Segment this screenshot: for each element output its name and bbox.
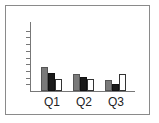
bar-q1-series-1 [41,67,48,91]
bar-q2-series-3 [87,79,94,91]
y-tick [26,44,30,45]
y-tick [26,64,30,65]
y-tick [26,58,30,59]
y-axis [30,22,31,91]
y-tick [26,51,30,52]
bar-q2-series-1 [73,74,80,91]
y-tick [26,37,30,38]
y-tick [26,31,30,32]
bar-q3-series-2 [112,84,119,91]
category-label-q2: Q2 [69,95,99,109]
category-label-q1: Q1 [37,95,67,109]
x-axis [30,91,135,92]
bar-q3-series-1 [105,80,112,91]
bar-q1-series-2 [48,73,55,91]
bar-q3-series-3 [119,74,126,91]
category-label-q3: Q3 [101,95,131,109]
y-tick [26,71,30,72]
y-tick [26,78,30,79]
y-tick [26,84,30,85]
bar-q1-series-3 [55,79,62,91]
bar-q2-series-2 [80,77,87,91]
